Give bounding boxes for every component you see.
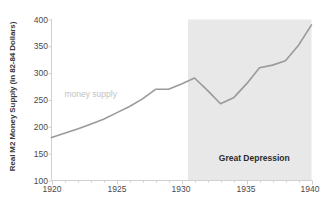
chart-container: Real M2 Money Supply (in 82-84 Dollars) … <box>0 0 325 210</box>
money-supply-annotation: money supply <box>65 89 117 99</box>
great-depression-annotation: Great Depression <box>219 153 290 163</box>
plot-area <box>0 0 325 210</box>
x-axis-tick-marks <box>53 181 313 185</box>
